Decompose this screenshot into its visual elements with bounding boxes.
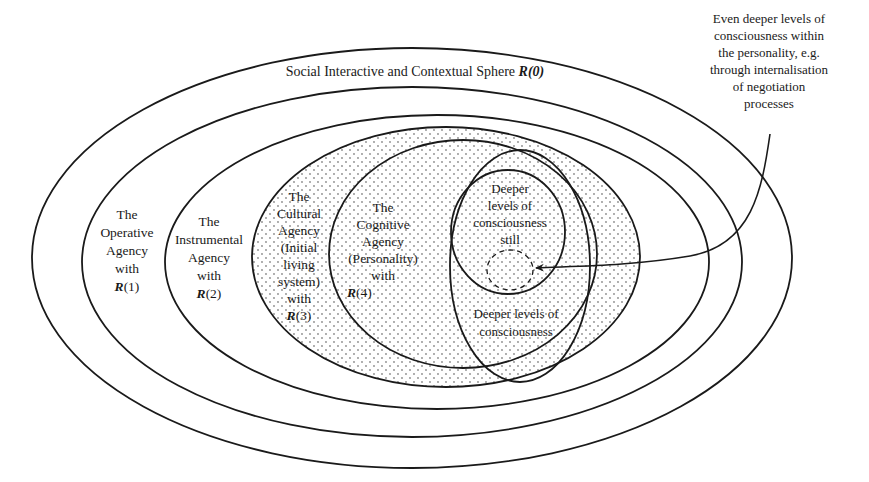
label-line: Agency — [168, 249, 250, 267]
label-line: with — [168, 267, 250, 285]
label-line: consciousness — [462, 214, 558, 231]
label-line: The — [168, 213, 250, 231]
label-line: with — [337, 267, 429, 284]
annotation-line: processes — [688, 95, 850, 112]
label-line: Operative — [92, 224, 162, 242]
r-index: (3) — [296, 308, 312, 323]
annotation-line: of negotiation — [688, 78, 850, 95]
r-index: (4) — [356, 285, 372, 300]
r-index: (1) — [124, 279, 140, 294]
r-letter: R — [115, 279, 124, 294]
annotation-line: through internalisation — [688, 61, 850, 78]
label-line: Agency — [92, 242, 162, 260]
deeper-consciousness-label: Deeper levels of consciousness — [454, 305, 578, 341]
label-line: Cognitive — [337, 216, 429, 233]
outer-sphere-text: Social Interactive and Contextual Sphere — [286, 64, 519, 79]
label-line: Cultural — [268, 205, 330, 222]
label-line: (Initial — [268, 239, 330, 256]
instrumental-agency-label: The Instrumental Agency with R(2) — [168, 213, 250, 303]
label-line: still — [462, 231, 558, 248]
r-label: R(1) — [92, 278, 162, 296]
r-letter: R — [347, 285, 356, 300]
cognitive-agency-label: The Cognitive Agency (Personality) with … — [337, 199, 429, 301]
deeper-still-label: Deeper levels of consciousness still — [462, 180, 558, 248]
label-line: The — [92, 206, 162, 224]
label-line: with — [268, 290, 330, 307]
annotation-line: consciousness within — [688, 27, 850, 44]
label-line: (Personality) — [337, 250, 429, 267]
label-line: Agency — [337, 233, 429, 250]
operative-agency-label: The Operative Agency with R(1) — [92, 206, 162, 296]
label-line: Deeper levels of — [454, 305, 578, 323]
label-line: consciousness — [454, 323, 578, 341]
cultural-agency-label: The Cultural Agency (Initial living syst… — [268, 188, 330, 324]
outer-sphere-label: Social Interactive and Contextual Sphere… — [250, 63, 580, 81]
label-line: The — [268, 188, 330, 205]
r-letter: R — [287, 308, 296, 323]
label-line: Deeper — [462, 180, 558, 197]
r-label: R(4) — [337, 284, 429, 301]
annotation-line: the personality, e.g. — [688, 44, 850, 61]
outer-sphere-r-label: R(0) — [519, 64, 545, 79]
label-line: Instrumental — [168, 231, 250, 249]
label-line: with — [92, 260, 162, 278]
label-line: levels of — [462, 197, 558, 214]
label-line: The — [337, 199, 429, 216]
even-deeper-annotation: Even deeper levels of consciousness with… — [688, 10, 850, 112]
annotation-line: Even deeper levels of — [688, 10, 850, 27]
r-letter: R — [197, 286, 206, 301]
label-line: system) — [268, 273, 330, 290]
r-label: R(3) — [268, 307, 330, 324]
label-line: living — [268, 256, 330, 273]
r-index: (2) — [206, 286, 222, 301]
r-label: R(2) — [168, 285, 250, 303]
label-line: Agency — [268, 222, 330, 239]
